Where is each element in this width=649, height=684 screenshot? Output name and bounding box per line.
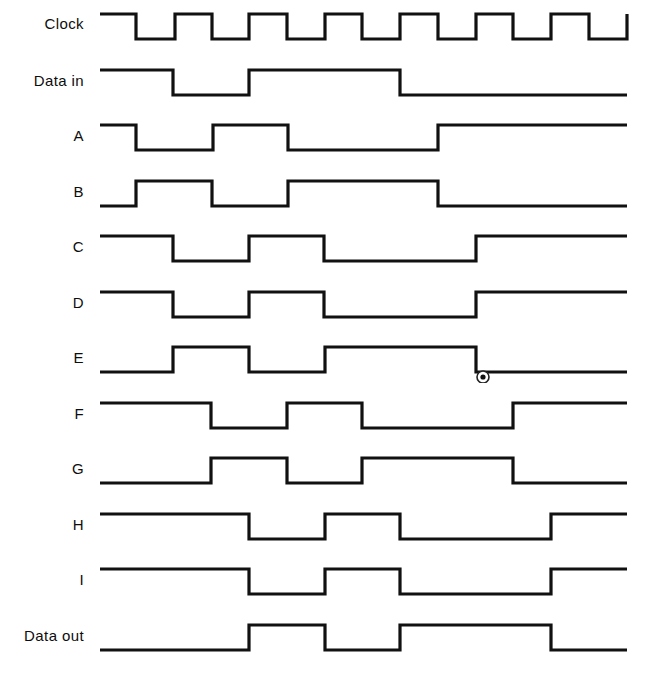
waveform-path (100, 125, 627, 150)
waveform-b (0, 177, 649, 217)
waveform-c (0, 232, 649, 272)
waveform-path (100, 403, 627, 428)
waveform-i (0, 565, 649, 605)
waveform-path (100, 14, 627, 39)
waveform-path (100, 70, 627, 95)
waveform-e (0, 343, 649, 383)
waveform-h (0, 510, 649, 550)
waveform-data-out (0, 621, 649, 661)
waveform-f (0, 399, 649, 439)
waveform-path (100, 181, 627, 206)
waveform-path (100, 458, 627, 483)
waveform-a (0, 121, 649, 161)
waveform-path (100, 236, 627, 261)
probe-point-dot-icon (480, 374, 485, 379)
waveform-path (100, 292, 627, 317)
waveform-path (100, 625, 627, 650)
waveform-path (100, 347, 627, 372)
waveform-g (0, 454, 649, 494)
waveform-path (100, 514, 627, 539)
waveform-path (100, 569, 627, 594)
waveform-d (0, 288, 649, 328)
waveform-data-in (0, 66, 649, 106)
waveform-clock (0, 10, 649, 50)
timing-diagram: ClockData inABCDEFGHIData out (0, 0, 649, 684)
